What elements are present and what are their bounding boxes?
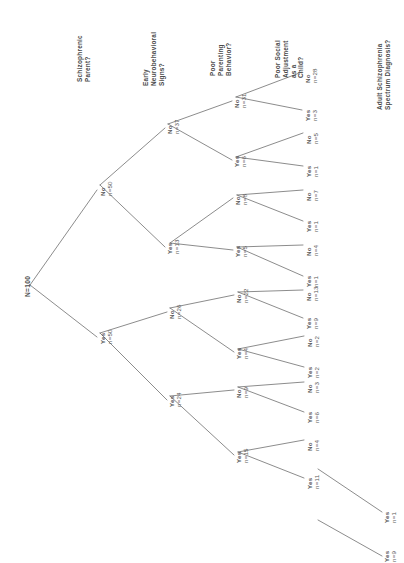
node-count: n=1 bbox=[312, 221, 319, 232]
node-n23: No n=13 bbox=[305, 286, 320, 301]
node-answer: Yes bbox=[233, 156, 240, 167]
node-n27: No n=3 bbox=[306, 382, 321, 393]
node-count: n=2 bbox=[313, 336, 320, 347]
node-n5: No n=26 bbox=[168, 304, 183, 319]
node-answer: No bbox=[305, 190, 312, 201]
node-n32: Yes n=9 bbox=[383, 551, 398, 562]
node-count: n=5 bbox=[241, 246, 248, 257]
header-line: Poor Social bbox=[274, 40, 282, 78]
node-count: n=4 bbox=[242, 348, 249, 359]
node-answer: No bbox=[99, 181, 106, 196]
node-answer: No bbox=[233, 93, 240, 108]
header-line: Spectrum Diagnosis? bbox=[384, 40, 392, 110]
node-answer: Yes bbox=[234, 246, 241, 257]
node-n8: Yes n=6 bbox=[233, 156, 248, 167]
node-answer: No bbox=[235, 387, 242, 398]
node-n11: No n=22 bbox=[235, 288, 250, 303]
node-answer: Yes bbox=[306, 475, 313, 489]
header-line: Neurobehavioral bbox=[150, 32, 158, 86]
node-answer: Yes bbox=[305, 318, 312, 329]
node-count: n=1 bbox=[312, 166, 319, 177]
node-n31: Yes n=1 bbox=[383, 512, 398, 523]
node-answer: Yes bbox=[383, 512, 390, 523]
column-header-early-neurobehavioral-signs: Early Neurobehavioral Signs? bbox=[142, 32, 165, 86]
node-answer: No bbox=[305, 133, 312, 144]
header-line: Parent? bbox=[84, 35, 92, 82]
column-header-poor-parenting-behavior: Poor Parenting Behavior? bbox=[209, 42, 232, 76]
node-count: n=15 bbox=[242, 448, 249, 463]
node-n6: Yes n=24 bbox=[168, 392, 183, 407]
node-answer: Yes bbox=[306, 412, 313, 423]
node-n18: Yes n=1 bbox=[305, 166, 320, 177]
node-count: n=24 bbox=[175, 392, 182, 407]
edge-n8-no bbox=[236, 133, 303, 157]
node-count: n=37 bbox=[173, 119, 180, 134]
node-count: n=9 bbox=[242, 387, 249, 398]
node-n20: Yes n=1 bbox=[305, 221, 320, 232]
node-n9: No n=8 bbox=[234, 194, 249, 205]
header-line: Signs? bbox=[158, 32, 166, 86]
node-answer: Yes bbox=[235, 348, 242, 359]
node-answer: Yes bbox=[306, 367, 313, 378]
node-answer: Yes bbox=[383, 551, 390, 562]
node-answer: No bbox=[166, 119, 173, 134]
node-count: n=6 bbox=[240, 156, 247, 167]
node-n16: Yes n=3 bbox=[304, 110, 319, 121]
tree-edges bbox=[0, 0, 404, 563]
node-n28: Yes n=6 bbox=[306, 412, 321, 423]
node-n7: No n=31 bbox=[233, 93, 248, 108]
node-count: n=50 bbox=[106, 181, 113, 196]
node-answer: No bbox=[306, 440, 313, 451]
node-answer: No bbox=[305, 245, 312, 256]
node-answer: Yes bbox=[168, 392, 175, 407]
node-count: n=28 bbox=[311, 68, 318, 83]
node-count: n=4 bbox=[313, 440, 320, 451]
node-count: n=13 bbox=[173, 239, 180, 254]
column-header-schizophrenic-parent: Schizophrenic Parent? bbox=[76, 35, 92, 82]
root-node-label: N=100 bbox=[24, 276, 32, 297]
node-answer: No bbox=[304, 68, 311, 83]
node-count: n=9 bbox=[312, 318, 319, 329]
edge-n32-yes bbox=[318, 520, 382, 556]
node-count: n=3 bbox=[313, 382, 320, 393]
edge-n4-no bbox=[170, 198, 233, 243]
node-answer: No bbox=[234, 194, 241, 205]
node-answer: No bbox=[306, 336, 313, 347]
node-n26: Yes n=2 bbox=[306, 367, 321, 378]
node-n21: No n=4 bbox=[305, 245, 320, 256]
node-count: n=9 bbox=[390, 551, 397, 562]
node-count: n=1 bbox=[390, 512, 397, 523]
header-line: as a bbox=[290, 40, 298, 78]
header-line: Adjustment bbox=[282, 40, 290, 78]
column-header-adult-schizophrenia-spectrum-diagnosis: Adult Schizophrenia Spectrum Diagnosis? bbox=[376, 40, 392, 110]
node-answer: Yes bbox=[166, 239, 173, 254]
node-n4: Yes n=13 bbox=[166, 239, 181, 254]
node-answer: Yes bbox=[305, 221, 312, 232]
edge-n30-yes bbox=[318, 469, 382, 512]
header-line: Behavior? bbox=[225, 42, 233, 76]
edge-root-no bbox=[30, 190, 97, 285]
node-count: n=3 bbox=[311, 110, 318, 121]
node-count: n=7 bbox=[312, 190, 319, 201]
node-count: n=6 bbox=[313, 412, 320, 423]
node-count: n=22 bbox=[242, 288, 249, 303]
node-count: n=13 bbox=[312, 286, 319, 301]
header-line: Adult Schizophrenia bbox=[376, 40, 384, 110]
column-header-poor-social-adjustment-as-a-child: Poor Social Adjustment as a Child? bbox=[274, 40, 305, 78]
edge-n1-no bbox=[100, 128, 165, 185]
node-n19: No n=7 bbox=[305, 190, 320, 201]
header-line: Early bbox=[142, 32, 150, 86]
node-n10: Yes n=5 bbox=[234, 246, 249, 257]
node-count: n=4 bbox=[312, 245, 319, 256]
header-line: Schizophrenic bbox=[76, 35, 84, 82]
node-answer: Yes bbox=[99, 329, 106, 344]
node-answer: Yes bbox=[304, 110, 311, 121]
node-n14: Yes n=15 bbox=[235, 448, 250, 463]
node-n2: Yes n=50 bbox=[99, 329, 114, 344]
edge-root-yes bbox=[30, 285, 97, 337]
node-n30: Yes n=11 bbox=[306, 475, 321, 489]
node-n15: No n=28 bbox=[304, 68, 319, 83]
node-count: n=2 bbox=[313, 367, 320, 378]
node-answer: No bbox=[305, 286, 312, 301]
node-count: n=50 bbox=[106, 329, 113, 344]
